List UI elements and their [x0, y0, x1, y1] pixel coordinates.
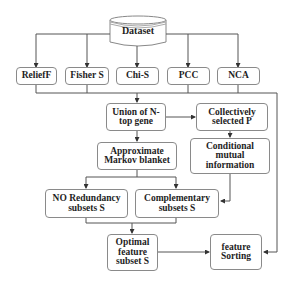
- fisher-score-node: Fisher S: [65, 67, 109, 85]
- feature-sorting-node: feature Sorting: [210, 234, 262, 270]
- chi-square-node: Chi-S: [116, 67, 159, 85]
- conditional-mutual-information-node: Conditional mutual information: [190, 138, 270, 174]
- pcc-node: PCC: [167, 67, 210, 85]
- no-redundancy-node: NO Redundancy subsets S: [45, 189, 128, 218]
- markov-blanket-node: Approximate Markov blanket: [97, 142, 177, 170]
- collectively-selected-node: Collectively selected P: [196, 103, 268, 131]
- union-node: Union of N-top gene: [106, 103, 166, 131]
- relieff-node: ReliefF: [16, 67, 57, 85]
- dataset-node: Dataset: [110, 25, 166, 36]
- complementary-node: Complementary subsets S: [135, 189, 219, 218]
- optimal-subset-node: Optimal feature subset S: [107, 234, 158, 271]
- nca-node: NCA: [217, 67, 260, 85]
